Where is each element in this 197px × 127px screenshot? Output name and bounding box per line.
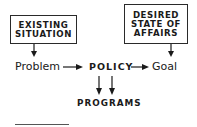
arrow-down-icon — [31, 44, 37, 57]
arrow-down-icon — [96, 76, 102, 95]
arrow-down-icon — [168, 44, 174, 57]
divider — [15, 124, 69, 125]
arrow-down-icon — [109, 76, 115, 95]
arrow-right-icon — [131, 64, 149, 70]
arrows — [0, 0, 197, 127]
arrow-right-icon — [63, 64, 83, 70]
